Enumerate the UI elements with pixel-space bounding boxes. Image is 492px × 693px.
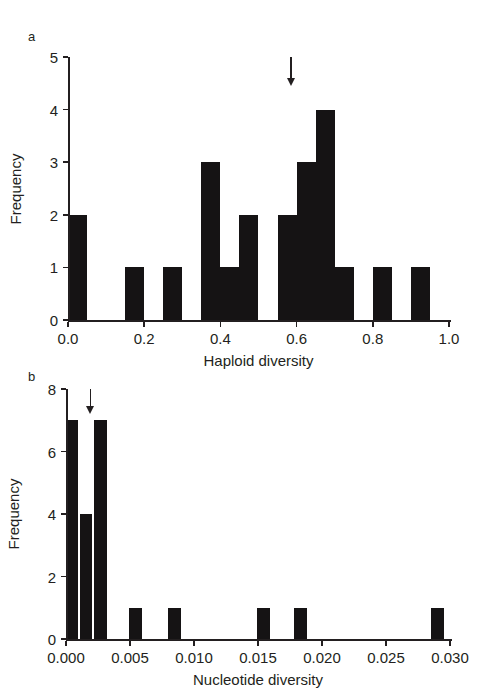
histogram-bar: [294, 608, 307, 639]
x-tick: [193, 641, 195, 646]
arrow-shaft: [90, 389, 92, 407]
histogram-bar: [278, 215, 297, 320]
histogram-bar: [335, 267, 354, 320]
histogram-bar: [220, 267, 239, 320]
x-tick: [296, 322, 298, 327]
histogram-bar: [163, 267, 182, 320]
x-tick-label: 0.000: [47, 650, 85, 665]
x-tick: [143, 322, 145, 327]
x-tick: [385, 641, 387, 646]
y-axis-title-a: Frequency: [8, 153, 24, 224]
y-tick-label: 4: [30, 507, 56, 522]
histogram-bar: [297, 162, 316, 320]
histogram-bar: [94, 420, 107, 639]
y-tick: [63, 109, 68, 111]
y-tick-label: 2: [30, 569, 56, 584]
y-tick: [63, 56, 68, 58]
histogram-bar: [257, 608, 270, 639]
x-tick: [321, 641, 323, 646]
x-axis-title-b: Nucleotide diversity: [193, 672, 323, 688]
x-tick: [129, 641, 131, 646]
x-tick-label: 0.025: [367, 650, 405, 665]
y-tick: [63, 161, 68, 163]
histogram-bar: [80, 514, 92, 639]
y-tick-label: 3: [32, 155, 58, 170]
y-tick-label: 5: [32, 50, 58, 65]
histogram-bar: [68, 215, 87, 320]
arrow-shaft: [290, 57, 292, 79]
histogram-bar: [125, 267, 144, 320]
histogram-bar: [168, 608, 181, 639]
mean-indicator-arrow: [84, 389, 96, 414]
mean-indicator-arrow: [285, 57, 297, 86]
x-tick: [220, 322, 222, 327]
panel-a: a 0123450.00.20.40.60.81.0 Frequency Hap…: [0, 0, 492, 360]
histogram-bar: [373, 267, 392, 320]
x-tick-label: 0.6: [286, 331, 307, 346]
histogram-bar: [129, 608, 142, 639]
y-tick: [63, 214, 68, 216]
arrow-head-icon: [287, 78, 295, 86]
x-tick-label: 0.015: [239, 650, 277, 665]
x-tick-label: 0.4: [210, 331, 231, 346]
x-tick-label: 0.0: [58, 331, 79, 346]
histogram-bar: [316, 110, 335, 320]
x-tick-label: 1.0: [439, 331, 460, 346]
histogram-bar: [431, 608, 444, 639]
x-axis-line: [66, 639, 452, 641]
y-tick-label: 0: [30, 632, 56, 647]
histogram-bar: [239, 215, 258, 320]
y-tick: [63, 267, 68, 269]
x-tick: [372, 322, 374, 327]
histogram-bar: [411, 267, 430, 320]
x-tick-label: 0.020: [303, 650, 341, 665]
y-tick-label: 0: [32, 313, 58, 328]
x-tick: [448, 322, 450, 327]
x-tick-label: 0.005: [111, 650, 149, 665]
histogram-bar: [201, 162, 220, 320]
y-axis-title-b: Frequency: [6, 479, 22, 550]
x-tick: [257, 641, 259, 646]
x-axis-line: [68, 320, 451, 322]
x-tick-label: 0.030: [431, 650, 469, 665]
panel-b: b 024680.0000.0050.0100.0150.0200.0250.0…: [0, 360, 492, 693]
figure-diversity-histograms: a 0123450.00.20.40.60.81.0 Frequency Hap…: [0, 0, 492, 693]
histogram-bar: [66, 420, 78, 639]
y-tick: [61, 638, 66, 640]
plot-area-a: 0123450.00.20.40.60.81.0: [0, 0, 492, 360]
x-tick-label: 0.8: [362, 331, 383, 346]
x-tick-label: 0.010: [175, 650, 213, 665]
x-tick: [449, 641, 451, 646]
y-tick-label: 8: [30, 382, 56, 397]
y-tick: [61, 576, 66, 578]
x-tick: [65, 641, 67, 646]
y-tick: [63, 319, 68, 321]
arrow-head-icon: [86, 406, 94, 414]
y-tick-label: 6: [30, 444, 56, 459]
y-axis-line: [66, 389, 68, 641]
y-tick-label: 4: [32, 102, 58, 117]
y-tick: [61, 513, 66, 515]
x-tick: [67, 322, 69, 327]
y-tick-label: 1: [32, 260, 58, 275]
x-tick-label: 0.2: [134, 331, 155, 346]
y-tick: [61, 388, 66, 390]
y-axis-line: [68, 57, 70, 322]
plot-area-b: 024680.0000.0050.0100.0150.0200.0250.030: [0, 360, 492, 693]
y-tick: [61, 451, 66, 453]
y-tick-label: 2: [32, 207, 58, 222]
